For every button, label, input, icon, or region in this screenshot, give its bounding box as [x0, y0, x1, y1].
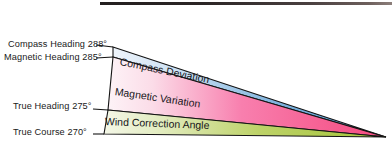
leader-line-true-heading: [93, 109, 108, 110]
diagram-figure: Compass Heading 288° Magnetic Heading 28…: [0, 0, 392, 153]
label-true-heading: True Heading 275°: [13, 102, 92, 111]
label-compass-heading: Compass Heading 288°: [8, 40, 107, 49]
label-true-course: True Course 270°: [13, 128, 87, 137]
label-magnetic-heading: Magnetic Heading 285°: [4, 53, 102, 62]
